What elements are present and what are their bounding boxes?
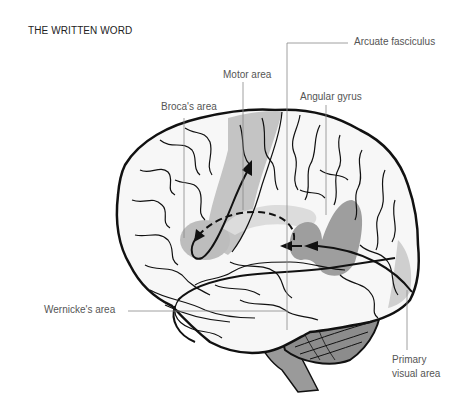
primary-visual-area-label-line2: visual area (392, 368, 440, 379)
motor-area-label: Motor area (223, 69, 271, 80)
angular-gyrus-label: Angular gyrus (300, 91, 362, 102)
primary-visual-area-label-line1: Primary (392, 354, 426, 365)
brocas-area-label: Broca's area (161, 101, 217, 112)
arcuate-fasciculus-label: Arcuate fasciculus (354, 36, 435, 47)
wernickes-area-label: Wernicke's area (44, 304, 115, 315)
